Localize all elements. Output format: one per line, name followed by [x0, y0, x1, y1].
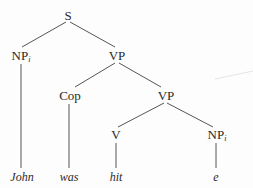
node-v: V [111, 128, 120, 142]
leaf-e: e [213, 170, 218, 184]
node-v-label: V [111, 127, 120, 142]
edge-vp-np [167, 103, 213, 127]
scan-artifact [215, 71, 253, 79]
edge-s-np [22, 22, 66, 47]
node-cop: Cop [59, 89, 81, 103]
syntax-tree: S NPi VP Cop VP V NPi John was hit e [0, 0, 253, 188]
node-vp-top-label: VP [109, 48, 126, 63]
node-vp-top: VP [109, 49, 126, 63]
edge-vp-v [118, 103, 164, 127]
edge-s-vp [70, 22, 115, 47]
node-vp-lower: VP [158, 89, 175, 103]
node-np-object: NPi [208, 128, 227, 146]
leaf-was: was [60, 170, 79, 184]
leaf-hit: hit [110, 170, 123, 184]
node-cop-label: Cop [59, 88, 81, 103]
node-np-subject-label: NP [12, 48, 29, 63]
node-np-object-index: i [224, 134, 226, 143]
node-s-label: S [64, 8, 71, 23]
node-np-subject: NPi [12, 49, 31, 67]
node-np-subject-index: i [28, 55, 30, 64]
tree-edges [0, 0, 253, 188]
node-vp-lower-label: VP [158, 88, 175, 103]
edge-vp-cop [75, 63, 115, 87]
edge-vp-vp [119, 63, 161, 87]
leaf-john: John [10, 170, 33, 184]
node-np-object-label: NP [208, 127, 225, 142]
node-s: S [64, 9, 71, 23]
